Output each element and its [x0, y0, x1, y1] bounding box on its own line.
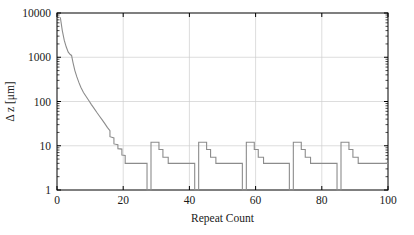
y-tick-label: 1: [45, 184, 51, 196]
delta-z-vs-repeat-count-chart: 020406080100 110100100010000 Repeat Coun…: [0, 0, 414, 235]
y-tick-labels-group: 110100100010000: [22, 7, 51, 196]
y-tick-label: 100: [34, 96, 52, 108]
y-tick-label: 10: [40, 140, 52, 152]
series-polyline-delta-z: [60, 17, 388, 190]
y-tick-label: 1000: [28, 51, 51, 63]
y-tick-label: 10000: [22, 7, 51, 19]
x-tick-label: 60: [250, 194, 262, 206]
x-tick-label: 40: [184, 194, 196, 206]
x-axis-title: Repeat Count: [191, 212, 255, 225]
y-axis-title: Δ z [μm]: [4, 81, 17, 121]
chart-container: 020406080100 110100100010000 Repeat Coun…: [0, 0, 414, 235]
x-tick-label: 20: [117, 194, 129, 206]
x-tick-label: 0: [54, 194, 60, 206]
x-tick-label: 80: [316, 194, 328, 206]
x-tick-label: 100: [379, 194, 397, 206]
x-tick-labels-group: 020406080100: [54, 194, 397, 206]
data-series-line: [60, 17, 388, 190]
